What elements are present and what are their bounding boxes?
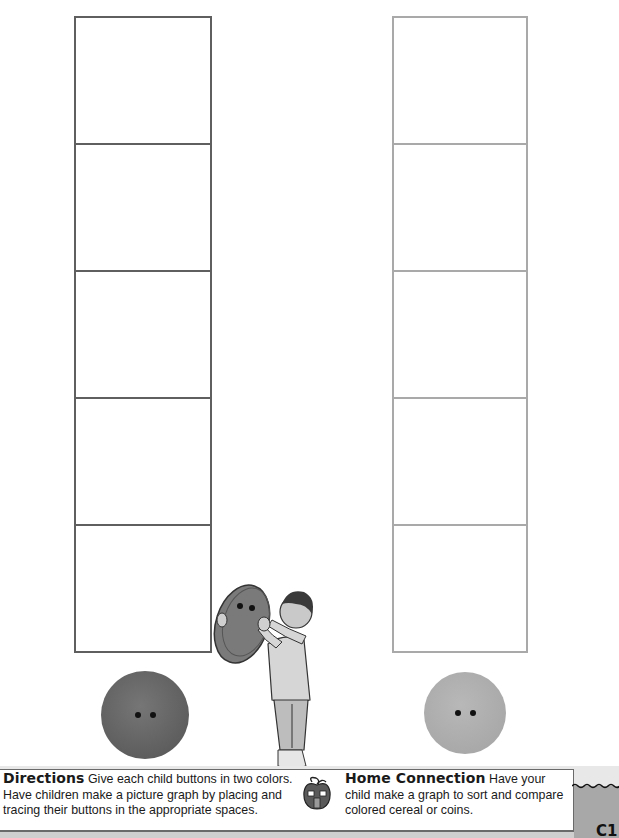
button-hole <box>150 712 156 718</box>
graph-cell[interactable] <box>74 526 212 653</box>
graph-cell[interactable] <box>392 272 528 399</box>
bottom-rule <box>0 832 574 838</box>
graph-cell[interactable] <box>74 272 212 399</box>
page-number: C1 <box>596 822 617 838</box>
graph-cell[interactable] <box>74 399 212 526</box>
light-button-icon <box>424 672 506 754</box>
apple-house-icon <box>302 776 332 810</box>
directions-heading: Directions <box>3 770 85 786</box>
dark-button-icon <box>101 671 189 759</box>
graph-cell[interactable] <box>392 16 528 145</box>
graph-cell[interactable] <box>392 145 528 272</box>
graph-column-light <box>392 16 528 653</box>
child-with-button-illustration <box>206 582 322 770</box>
home-connection-heading: Home Connection <box>345 770 486 786</box>
torn-edge-decoration <box>572 779 619 789</box>
graph-cell[interactable] <box>392 526 528 653</box>
button-hole <box>470 710 476 716</box>
directions-note: Directions Give each child buttons in tw… <box>3 771 293 819</box>
graph-column-dark <box>74 16 212 653</box>
graph-cell[interactable] <box>392 399 528 526</box>
button-hole <box>455 710 461 716</box>
home-connection-note: Home Connection Have your child make a g… <box>345 771 573 819</box>
graph-cell[interactable] <box>74 145 212 272</box>
button-hole <box>135 712 141 718</box>
graph-cell[interactable] <box>74 16 212 145</box>
